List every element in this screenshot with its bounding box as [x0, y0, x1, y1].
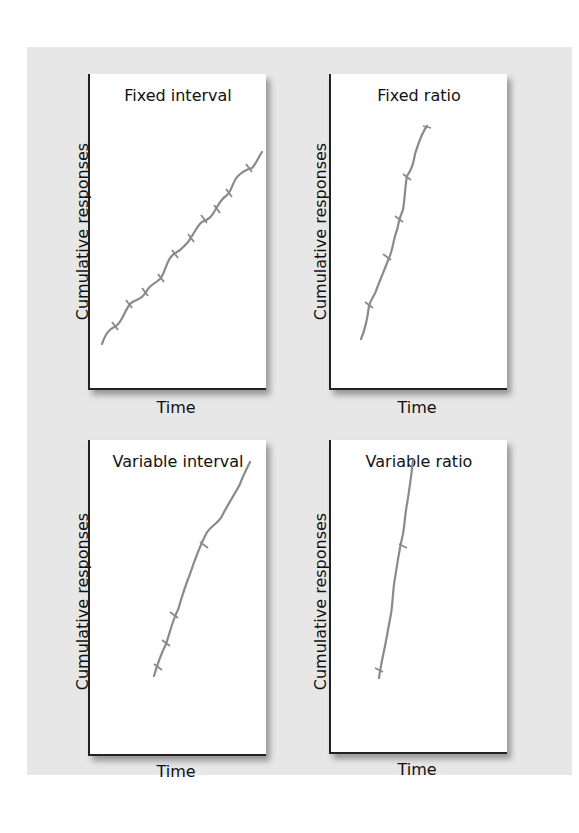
y-axis-label: Cumulative responses — [73, 502, 92, 702]
fixed-ratio-curve — [331, 74, 507, 388]
panel-fixed-interval: Fixed interval — [88, 74, 266, 390]
x-axis-label: Time — [136, 762, 216, 781]
x-axis-label: Time — [136, 398, 216, 417]
panel-variable-interval: Variable interval — [88, 440, 266, 756]
y-axis-label: Cumulative responses — [311, 502, 330, 702]
variable-ratio-curve — [331, 440, 507, 752]
variable-interval-curve — [90, 440, 266, 754]
fixed-interval-curve — [90, 74, 266, 388]
x-axis-label: Time — [377, 760, 457, 779]
panel-variable-ratio: Variable ratio — [329, 440, 507, 754]
x-axis-label: Time — [377, 398, 457, 417]
y-axis-label: Cumulative responses — [311, 132, 330, 332]
panel-fixed-ratio: Fixed ratio — [329, 74, 507, 390]
y-axis-label: Cumulative responses — [73, 132, 92, 332]
